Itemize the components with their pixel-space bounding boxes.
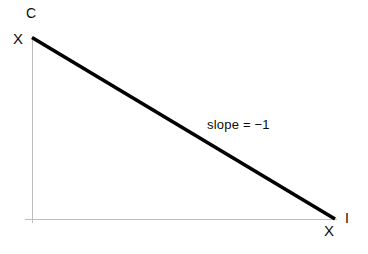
budget-constraint-line [32,38,335,220]
horizontal-axis-endpoint-label: X [324,223,334,238]
vertical-axis-name: C [26,6,36,20]
plot-area [0,0,368,254]
vertical-axis-endpoint-label: X [13,31,23,46]
horizontal-axis-name: I [345,211,349,225]
slope-annotation: slope = −1 [207,118,270,131]
figure-canvas: C X I X slope = −1 [0,0,368,254]
